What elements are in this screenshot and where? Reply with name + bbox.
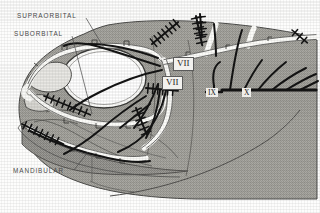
label-nerve-ix: IX [206, 88, 218, 97]
label-nerve-vii-upper: VII [173, 57, 194, 71]
label-nerve-x: X [242, 88, 251, 97]
label-supraorbital: SUPRAORBITAL [17, 13, 77, 19]
fish-head-anatomy-figure: SUPRAORBITAL SUBORBITAL MANDIBULAR VII V… [0, 0, 320, 213]
label-suborbital: SUBORBITAL [14, 31, 63, 37]
label-nerve-vii-lower: VII [162, 76, 183, 90]
label-mandibular: MANDIBULAR [13, 168, 64, 174]
